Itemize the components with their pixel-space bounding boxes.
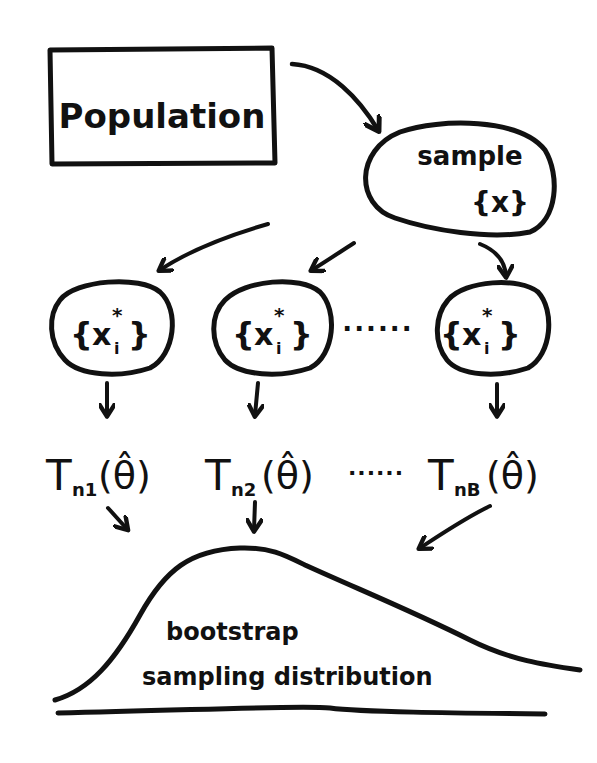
resample-node-2: { x * i } [214, 282, 332, 374]
arrow-statistic-2-to-distribution [254, 502, 255, 530]
resample-sup: * [482, 303, 493, 327]
resample-brace-open: { [440, 315, 463, 353]
resample-sup: * [112, 303, 123, 327]
resample-var: x [462, 317, 481, 352]
distribution-label-line1: bootstrap [166, 618, 299, 646]
resample-brace-close: } [128, 315, 151, 353]
bootstrap-diagram: Population sample {x} { x * i } { x * i … [0, 0, 597, 763]
arrow-resample-2-to-statistic-2 [255, 383, 258, 415]
resample-ellipsis: ······ [342, 314, 413, 344]
resample-var: x [92, 317, 111, 352]
arrow-statistic-1-to-distribution [108, 508, 127, 529]
statistic-T: T [427, 451, 454, 500]
arrow-statistic-B-to-distribution [420, 506, 490, 548]
statistic-arg: (θ̂) [98, 451, 151, 497]
statistic-T: T [45, 451, 72, 500]
statistic-T: T [204, 451, 231, 500]
resample-var: x [254, 317, 273, 352]
sample-set: {x} [471, 186, 529, 219]
statistic-sub: n2 [231, 479, 256, 500]
resample-brace-close: } [290, 315, 313, 353]
resample-brace-close: } [498, 315, 521, 353]
sample-label: sample [417, 141, 522, 171]
statistic-1: T n1 (θ̂) [45, 451, 151, 500]
statistic-sub: nB [454, 479, 481, 500]
resample-node-B: { x * i } [437, 283, 548, 375]
arrow-sample-to-resample-2 [312, 243, 354, 270]
population-label: Population [59, 96, 266, 136]
resample-brace-open: { [232, 315, 255, 353]
arrow-sample-to-resample-B [480, 244, 506, 276]
distribution-baseline [58, 707, 545, 714]
statistic-sub: n1 [72, 479, 97, 500]
distribution-label-line2: sampling distribution [142, 663, 433, 691]
statistic-arg: (θ̂) [261, 451, 314, 497]
statistic-2: T n2 (θ̂) [204, 451, 314, 500]
resample-sub: i [276, 339, 281, 358]
resample-node-1: { x * i } [52, 282, 173, 374]
statistic-B: T nB (θ̂) [427, 451, 539, 500]
arrow-population-to-sample [292, 64, 378, 130]
population-node: Population [50, 48, 275, 164]
resample-sub: i [484, 339, 489, 358]
statistic-ellipsis: ······ [348, 460, 404, 485]
arrow-sample-to-resample-1 [160, 224, 268, 270]
resample-sup: * [274, 303, 285, 327]
resample-brace-open: { [70, 315, 93, 353]
resample-sub: i [114, 339, 119, 358]
sample-node: sample {x} [366, 123, 555, 235]
statistic-arg: (θ̂) [486, 451, 539, 497]
